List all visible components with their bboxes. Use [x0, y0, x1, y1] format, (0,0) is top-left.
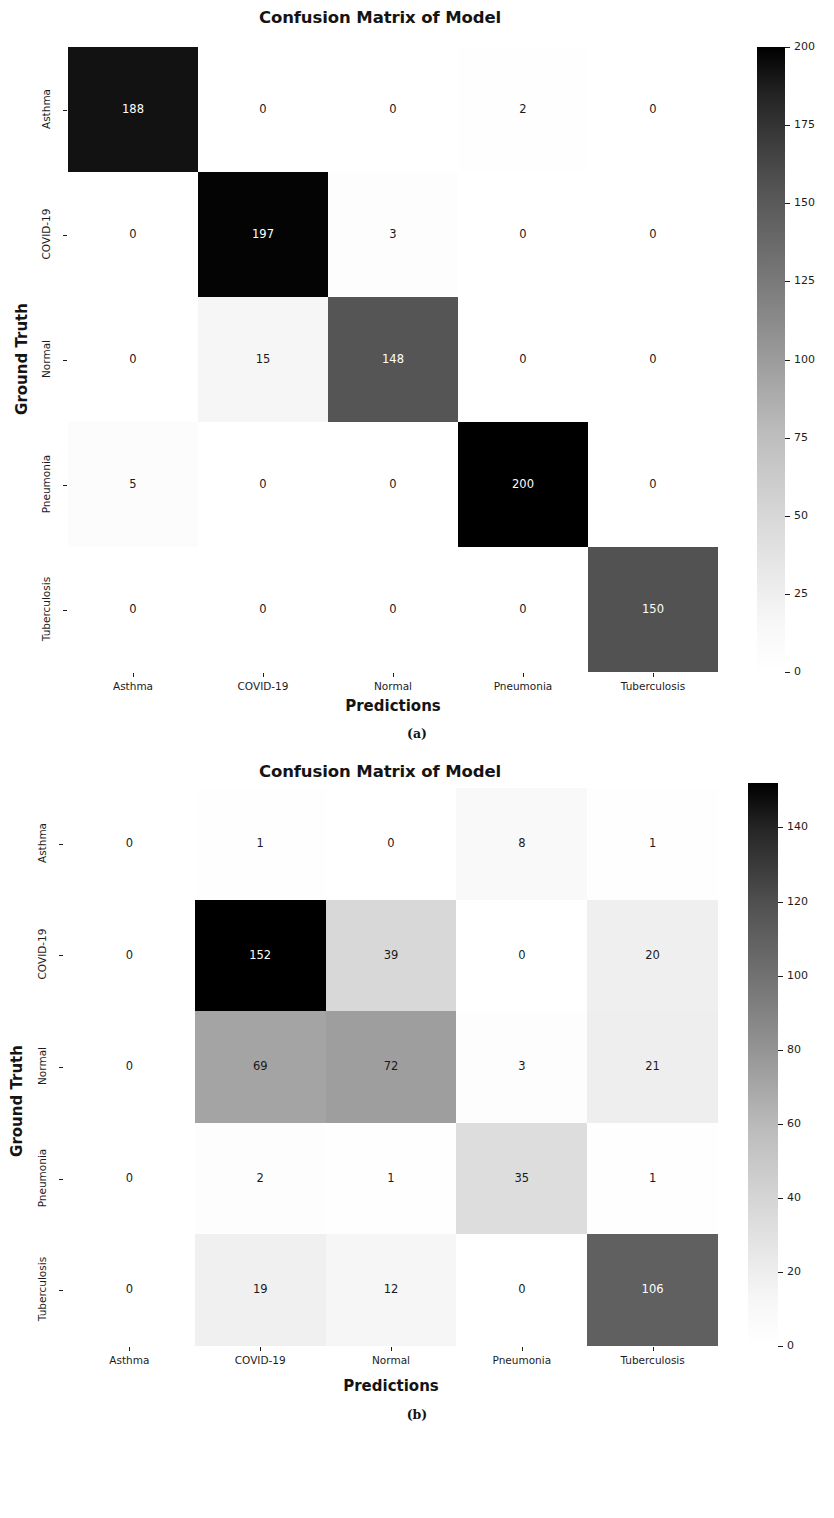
- x-tick-mark: [653, 673, 654, 677]
- colorbar-tick-label: 140: [787, 820, 808, 833]
- heatmap-cell: 200: [458, 422, 588, 547]
- colorbar-tick-label: 60: [787, 1117, 801, 1130]
- cell-value: 0: [259, 104, 266, 116]
- cell-value: 0: [129, 604, 136, 616]
- colorbar-b: [748, 783, 778, 1346]
- colorbar-tick-label: 50: [794, 509, 808, 522]
- colorbar-tick-mark: [785, 281, 790, 282]
- cell-value: 8: [518, 838, 525, 850]
- heatmap-cell: 148: [328, 297, 458, 422]
- heatmap-cell: 197: [198, 172, 328, 297]
- cell-value: 1: [387, 1173, 394, 1185]
- heatmap-cell: 0: [588, 47, 718, 172]
- colorbar-tick-mark: [778, 1346, 783, 1347]
- heatmap-cell: 2: [458, 47, 588, 172]
- colorbar-tick-mark: [778, 1272, 783, 1273]
- colorbar-tick-label: 75: [794, 431, 808, 444]
- colorbar-tick-mark: [785, 516, 790, 517]
- heatmap-cell: 19: [195, 1234, 326, 1346]
- heatmap-cell: 0: [68, 547, 198, 672]
- y-tick-label: Asthma: [36, 795, 48, 891]
- colorbar-tick-label: 20: [787, 1265, 801, 1278]
- colorbar-tick-label: 25: [794, 587, 808, 600]
- x-tick-mark: [653, 1347, 654, 1351]
- heatmap-cell: 0: [588, 422, 718, 547]
- heatmap-cell: 106: [587, 1234, 718, 1346]
- colorbar-tick-mark: [785, 47, 790, 48]
- colorbar-tick-mark: [778, 1198, 783, 1199]
- y-tick-mark: [63, 235, 67, 236]
- cell-value: 0: [389, 479, 396, 491]
- heatmap-cell: 69: [195, 1011, 326, 1123]
- colorbar-tick-label: 100: [787, 969, 808, 982]
- cell-value: 3: [518, 1061, 525, 1073]
- x-axis-label-b: Predictions: [64, 1377, 718, 1395]
- cell-value: 21: [645, 1061, 660, 1073]
- cell-value: 69: [253, 1061, 268, 1073]
- colorbar-tick-label: 0: [794, 665, 801, 678]
- cell-value: 0: [389, 604, 396, 616]
- colorbar-tick-mark: [785, 438, 790, 439]
- colorbar-tick-mark: [778, 827, 783, 828]
- x-tick-label: COVID-19: [198, 680, 328, 692]
- cell-value: 0: [126, 950, 133, 962]
- colorbar-a: [757, 47, 785, 672]
- x-tick-label: Asthma: [68, 680, 198, 692]
- y-tick-label: Tuberculosis: [36, 1241, 48, 1337]
- cell-value: 0: [129, 354, 136, 366]
- cell-value: 0: [649, 104, 656, 116]
- figure-b: Confusion Matrix of Model Ground Truth 0…: [0, 762, 834, 1518]
- colorbar-tick-mark: [785, 360, 790, 361]
- x-tick-mark: [133, 673, 134, 677]
- cell-value: 2: [257, 1173, 264, 1185]
- y-tick-mark: [59, 1290, 63, 1291]
- cell-value: 0: [129, 229, 136, 241]
- x-tick-label: Normal: [328, 680, 458, 692]
- cell-value: 148: [382, 354, 404, 366]
- heatmap-cell: 39: [326, 900, 457, 1012]
- x-tick-mark: [263, 673, 264, 677]
- x-axis-label-a: Predictions: [68, 697, 718, 715]
- cell-value: 20: [645, 950, 660, 962]
- figure-caption-b: (b): [0, 1407, 834, 1422]
- heatmap-cell: 0: [64, 1011, 195, 1123]
- heatmap-b: 0108101523902006972321021351019120106: [64, 788, 718, 1346]
- heatmap-cell: 150: [588, 547, 718, 672]
- x-tick-mark: [391, 1347, 392, 1351]
- heatmap-cell: 0: [588, 172, 718, 297]
- heatmap-cell: 8: [456, 788, 587, 900]
- heatmap-cell: 0: [456, 900, 587, 1012]
- x-tick-label: Pneumonia: [457, 1354, 587, 1366]
- heatmap-cell: 1: [587, 788, 718, 900]
- cell-value: 0: [649, 229, 656, 241]
- heatmap-cell: 0: [198, 422, 328, 547]
- heatmap-cell: 188: [68, 47, 198, 172]
- y-tick-label: COVID-19: [36, 906, 48, 1002]
- x-tick-label: Pneumonia: [458, 680, 588, 692]
- cell-value: 0: [126, 1061, 133, 1073]
- cell-value: 39: [384, 950, 399, 962]
- colorbar-tick-mark: [785, 594, 790, 595]
- heatmap-cell: 0: [458, 297, 588, 422]
- x-tick-label: Tuberculosis: [588, 1354, 718, 1366]
- heatmap-cell: 20: [587, 900, 718, 1012]
- y-tick-mark: [63, 110, 67, 111]
- cell-value: 0: [126, 838, 133, 850]
- cell-value: 35: [514, 1173, 529, 1185]
- cell-value: 0: [126, 1284, 133, 1296]
- cell-value: 0: [649, 354, 656, 366]
- cell-value: 0: [519, 354, 526, 366]
- cell-value: 150: [642, 604, 664, 616]
- x-tick-mark: [393, 673, 394, 677]
- y-axis-label-a: Ground Truth: [13, 299, 31, 419]
- cell-value: 0: [518, 1284, 525, 1296]
- colorbar-tick-label: 125: [794, 274, 815, 287]
- y-tick-mark: [63, 360, 67, 361]
- cell-value: 200: [512, 479, 534, 491]
- heatmap-a: 188002001973000151480050020000000150: [68, 47, 718, 672]
- y-tick-mark: [63, 485, 67, 486]
- y-tick-mark: [59, 955, 63, 956]
- heatmap-cell: 0: [588, 297, 718, 422]
- heatmap-cell: 12: [326, 1234, 457, 1346]
- y-tick-label: Tuberculosis: [40, 561, 52, 657]
